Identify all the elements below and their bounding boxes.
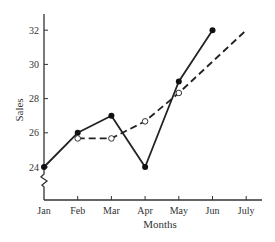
y-axis-line	[41, 14, 47, 200]
x-axis-title: Months	[143, 218, 177, 230]
line-chart: 2426283032JanFebMarAprMayJunJulyMonthsSa…	[0, 0, 275, 242]
sales-line	[44, 30, 213, 167]
average-point-marker	[75, 136, 81, 142]
sales-point-marker	[41, 164, 47, 170]
sales-point-marker	[176, 79, 182, 85]
y-tick-label: 28	[29, 93, 39, 104]
x-tick-label: Apr	[137, 205, 153, 216]
sales-point-marker	[142, 164, 148, 170]
y-axis-title: Sales	[13, 98, 25, 121]
x-tick-label: Feb	[70, 205, 85, 216]
x-tick-label: Jan	[37, 205, 50, 216]
y-tick-label: 30	[29, 59, 39, 70]
series-group	[41, 27, 246, 170]
y-tick-label: 26	[29, 127, 39, 138]
x-tick-label: July	[238, 205, 255, 216]
average-point-marker	[176, 90, 182, 96]
sales-point-marker	[108, 113, 114, 119]
x-tick-label: May	[170, 205, 188, 216]
y-tick-label: 32	[29, 25, 39, 36]
axes	[41, 14, 262, 200]
average-point-marker	[109, 136, 115, 142]
y-tick-label: 24	[29, 162, 39, 173]
x-tick-label: Jun	[206, 205, 220, 216]
x-tick-label: Mar	[103, 205, 120, 216]
sales-point-marker	[210, 27, 216, 33]
sales-point-marker	[75, 130, 81, 136]
average-point-marker	[142, 119, 148, 125]
